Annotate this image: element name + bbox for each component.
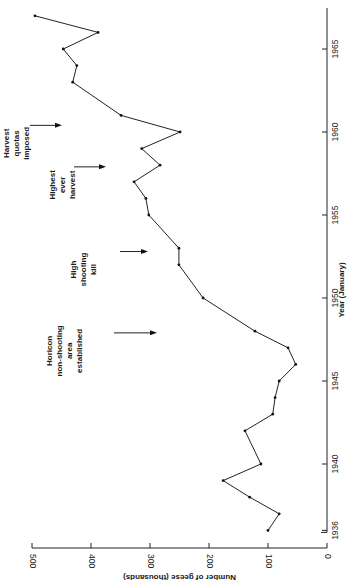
data-point <box>97 31 100 34</box>
annotation: Harvestquotasimposed <box>2 123 62 160</box>
arrow-head-icon <box>99 164 106 169</box>
data-point <box>260 463 263 466</box>
annotation-text: Highest <box>48 170 57 200</box>
data-point <box>271 413 274 416</box>
data-point <box>62 48 65 51</box>
annotation-text: kill <box>89 264 98 275</box>
data-point <box>202 297 205 300</box>
data-point <box>34 14 37 17</box>
annotation: Highshootingkill <box>69 249 148 286</box>
year-tick-label: 1936 <box>330 521 340 540</box>
annotation: Horiconnon-shootingareaestablished <box>45 325 157 376</box>
data-point <box>179 131 182 134</box>
year-tick-label: 1945 <box>330 371 340 390</box>
annotation-text: ever <box>58 177 67 193</box>
data-point <box>244 429 247 432</box>
arrow-head-icon <box>55 123 62 128</box>
data-point <box>287 346 290 349</box>
data-point <box>144 197 147 200</box>
annotations: Horiconnon-shootingareaestablishedHighsh… <box>2 123 157 377</box>
data-point <box>274 396 277 399</box>
year-tick-label: 1940 <box>330 454 340 473</box>
data-point <box>278 380 281 383</box>
data-point <box>294 363 297 366</box>
annotation-text: imposed <box>22 127 31 160</box>
data-point <box>75 64 78 67</box>
value-tick-label: 200 <box>205 554 215 568</box>
value-tick-label: 500 <box>28 554 38 568</box>
geese-population-chart: 0100200300400500Number of geese (thousan… <box>0 0 353 583</box>
data-point <box>147 214 150 217</box>
value-tick-label: 100 <box>264 554 274 568</box>
annotation-text: area <box>65 342 74 359</box>
axes: 0100200300400500Number of geese (thousan… <box>28 8 346 582</box>
data-point <box>71 81 74 84</box>
annotation-text: harvest <box>68 170 77 199</box>
data-point <box>178 247 181 250</box>
chart-canvas: 0100200300400500Number of geese (thousan… <box>0 0 353 583</box>
data-point <box>133 180 136 183</box>
value-tick-label: 0 <box>323 554 333 559</box>
data-point <box>222 479 225 482</box>
value-axis-label: Number of geese (thousands) <box>123 573 236 582</box>
annotation-text: Horicon <box>45 336 54 366</box>
data-point <box>278 512 281 515</box>
data-point <box>267 529 270 532</box>
data-point <box>178 263 181 266</box>
annotation-text: quotas <box>12 130 21 157</box>
annotation-text: established <box>75 329 84 373</box>
year-tick-label: 1955 <box>330 205 340 224</box>
data-point <box>254 330 257 333</box>
data-point <box>248 496 251 499</box>
annotation-text: shooting <box>79 253 88 287</box>
data-point <box>120 114 123 117</box>
arrow-head-icon <box>150 330 157 335</box>
value-tick-label: 400 <box>87 554 97 568</box>
year-tick-label: 1965 <box>330 39 340 58</box>
year-axis-label: Year (January) <box>337 262 346 317</box>
annotation-text: High <box>69 261 78 279</box>
data-point <box>159 164 162 167</box>
data-point <box>140 147 143 150</box>
annotation-text: Harvest <box>2 128 11 158</box>
value-tick-label: 300 <box>146 554 156 568</box>
annotation: Highesteverharvest <box>48 164 106 199</box>
annotation-text: non-shooting <box>55 325 64 376</box>
year-tick-label: 1960 <box>330 122 340 141</box>
arrow-head-icon <box>141 249 148 254</box>
